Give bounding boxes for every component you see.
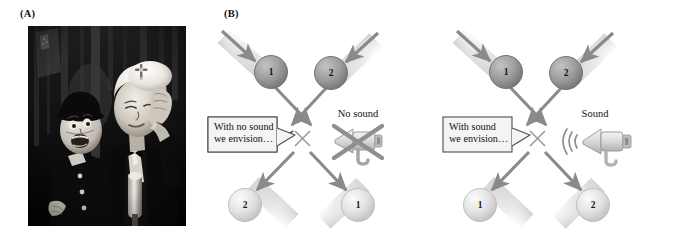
ball-bottom-left-number: 2 [243,200,248,210]
ball-top-right-number: 2 [329,68,334,78]
streaming-bounce-diagram: 1 2 2 1 With no sound w [200,0,684,229]
sound-scene: 1 2 1 2 With sound we envision… [443,29,631,229]
sound-wave-icon [563,129,577,154]
no-sound-callout-line-1: With no sound [214,121,272,133]
sound-label: Sound [582,108,610,119]
arrow-top-left-to-cross [274,86,311,125]
ball-top-right: 2 [550,57,583,90]
collision-cross-marker [295,131,310,146]
arrow-top-left-to-cross [509,86,546,125]
sound-callout: With sound we envision… [443,117,530,152]
panel-a-label: (A) [20,8,35,19]
ball-top-left-number: 1 [504,67,509,77]
ball-top-left: 1 [490,56,523,89]
ball-bottom-right: 2 [577,189,610,222]
ball-top-left: 1 [255,56,288,89]
ball-top-right-number: 2 [564,68,569,78]
ventriloquist-photograph [28,26,186,226]
arrow-top-right-to-cross [292,86,328,125]
ball-bottom-left: 1 [464,189,497,222]
arrow-top-right-to-cross [527,86,563,125]
megaphone-sound-icon [563,129,631,165]
ball-bottom-left: 2 [229,189,262,222]
ball-top-left-number: 1 [269,67,274,77]
figure-root: (A) [0,0,684,229]
ball-top-right: 2 [315,57,348,90]
no-sound-callout: With no sound we envision… [208,117,295,152]
sound-callout-line-2: we envision… [449,133,507,145]
collision-cross-marker [530,131,545,146]
arrow-cross-to-bottom-right [310,152,346,190]
no-sound-callout-line-2: we envision… [214,133,272,145]
arrow-cross-to-bottom-left [492,152,529,190]
no-sound-scene: 1 2 2 1 With no sound w [208,29,383,229]
ball-bottom-right-number: 2 [591,200,596,210]
arrow-cross-to-bottom-right [545,152,581,190]
ball-bottom-right: 1 [342,189,375,222]
ball-bottom-right-number: 1 [356,200,361,210]
megaphone-muted-icon [334,126,382,164]
arrow-cross-to-bottom-left [257,152,294,190]
ball-bottom-left-number: 1 [478,200,483,210]
sound-callout-line-1: With sound [449,121,507,133]
no-sound-label: No sound [338,108,379,119]
